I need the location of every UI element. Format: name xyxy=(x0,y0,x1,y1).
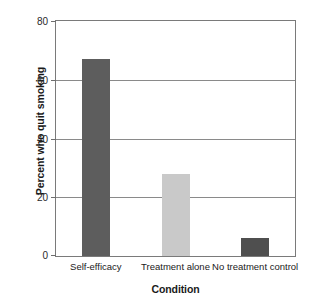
y-tick-label: 20 xyxy=(37,192,48,203)
x-axis-title: Condition xyxy=(55,283,296,295)
bar xyxy=(241,238,269,256)
bar xyxy=(82,59,110,256)
y-tick-label: 40 xyxy=(37,133,48,144)
y-tick-mark xyxy=(51,139,56,140)
y-tick-label: 60 xyxy=(37,74,48,85)
y-tick-mark xyxy=(51,197,56,198)
y-tick-mark xyxy=(51,255,56,256)
bar xyxy=(162,174,190,256)
y-tick-label: 0 xyxy=(42,250,48,261)
bar-chart: Percent who quit smoking 020406080 Self-… xyxy=(0,0,320,308)
y-tick-mark xyxy=(51,80,56,81)
plot-area: 020406080 Self-efficacyTreatment aloneNo… xyxy=(55,20,296,257)
y-tick-label: 80 xyxy=(37,16,48,27)
x-tick-label: Self-efficacy xyxy=(70,261,122,272)
y-tick-mark xyxy=(51,21,56,22)
x-tick-label: Treatment alone xyxy=(141,261,210,272)
x-tick-label: No treatment control xyxy=(212,261,298,272)
y-axis-title: Percent who quit smoking xyxy=(34,11,46,251)
